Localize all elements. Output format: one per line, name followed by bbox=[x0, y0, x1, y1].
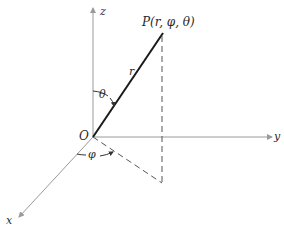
phi-label: φ bbox=[88, 149, 96, 160]
x-axis-label: x bbox=[6, 215, 12, 226]
spherical-coordinates-diagram: z P(r, φ, θ) r θ O y φ x bbox=[0, 0, 284, 227]
radius-vector bbox=[93, 33, 163, 137]
origin-label: O bbox=[79, 130, 89, 142]
radius-label: r bbox=[129, 66, 134, 77]
theta-arc-end bbox=[110, 98, 114, 106]
theta-label: θ bbox=[99, 89, 106, 100]
phi-arc-right bbox=[100, 152, 113, 156]
x-axis bbox=[19, 137, 93, 217]
y-axis-label: y bbox=[274, 131, 280, 142]
projection-xy-dashed bbox=[93, 137, 162, 183]
diagram-graphics bbox=[0, 0, 284, 227]
point-label: P(r, φ, θ) bbox=[142, 16, 195, 28]
phi-arc-left bbox=[77, 154, 86, 155]
z-axis-label: z bbox=[100, 6, 106, 17]
